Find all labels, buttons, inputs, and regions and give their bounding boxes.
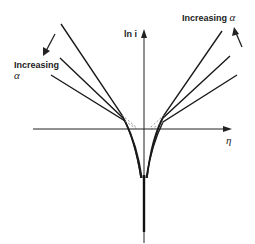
left-annotation-symbol: α (14, 70, 59, 80)
curve-right-1 (147, 31, 222, 178)
x-axis-arrow (223, 126, 232, 132)
curve-right-2 (147, 56, 230, 178)
curve-left-2 (60, 58, 141, 178)
left-annotation-text: Increasing (14, 60, 59, 70)
y-axis-label: ln i (124, 29, 137, 39)
right-arrow-shaft (236, 33, 242, 47)
right-arrow-head (232, 27, 239, 36)
right-annotation: Increasing α (182, 12, 235, 23)
left-arrow-head (43, 47, 50, 56)
left-annotation: Increasing α (14, 60, 59, 80)
x-axis-label: η (226, 135, 231, 145)
y-axis-label-text: ln i (124, 29, 137, 39)
curve-left-1 (61, 24, 141, 178)
right-annotation-symbol: α (230, 11, 236, 23)
y-axis-arrow (141, 29, 147, 38)
curve-left-3 (51, 75, 142, 178)
left-arrow-shaft (46, 34, 55, 51)
right-annotation-text: Increasing (182, 13, 227, 23)
